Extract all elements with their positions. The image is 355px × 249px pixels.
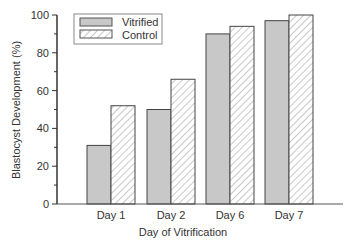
y-tick-label: 100: [31, 9, 49, 21]
x-tick-label: Day 7: [275, 209, 304, 221]
bar-vitrified-day-6: [206, 34, 230, 204]
x-tick-label: Day 2: [157, 209, 186, 221]
legend-label-vitrified: Vitrified: [122, 16, 158, 28]
y-axis-title: Blastocyst Development (%): [10, 41, 22, 179]
y-tick-label: 80: [37, 47, 49, 59]
legend-label-control: Control: [122, 29, 157, 41]
legend: Vitrified Control: [74, 14, 162, 44]
legend-swatch-vitrified: [80, 18, 112, 26]
y-tick-label: 20: [37, 160, 49, 172]
y-tick-label: 0: [43, 198, 49, 210]
bar-control-day-1: [111, 106, 135, 204]
y-tick-label: 60: [37, 85, 49, 97]
x-tick-label: Day 6: [216, 209, 245, 221]
x-axis-title: Day of Vitrification: [139, 226, 227, 238]
bar-chart: Day 1Day 2Day 6Day 7020406080100 Vitrifi…: [0, 0, 355, 249]
bar-vitrified-day-2: [147, 110, 171, 205]
bar-control-day-7: [289, 15, 313, 204]
bar-vitrified-day-7: [265, 21, 289, 204]
bar-vitrified-day-1: [87, 145, 111, 204]
x-tick-label: Day 1: [97, 209, 126, 221]
legend-swatch-control: [80, 30, 112, 38]
bar-control-day-6: [230, 26, 254, 204]
bar-control-day-2: [171, 79, 195, 204]
y-tick-label: 40: [37, 122, 49, 134]
